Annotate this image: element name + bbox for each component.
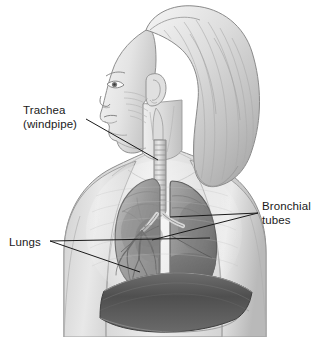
eye-pupil <box>113 83 115 85</box>
label-lungs-line1: Lungs <box>9 236 41 248</box>
ear <box>146 74 166 106</box>
label-trachea-line1: Trachea <box>23 104 65 116</box>
respiratory-system-figure: Trachea(windpipe) Bronchialtubes Lungs <box>0 0 319 337</box>
label-lungs: Lungs <box>9 236 41 250</box>
label-bronchial-line1: Bronchial <box>262 200 311 212</box>
label-trachea: Trachea(windpipe) <box>23 104 77 131</box>
label-trachea-line2: (windpipe) <box>23 118 77 130</box>
label-bronchial-line2: tubes <box>262 214 291 226</box>
label-bronchial-tubes: Bronchialtubes <box>262 200 311 227</box>
anatomy-illustration <box>0 0 319 337</box>
